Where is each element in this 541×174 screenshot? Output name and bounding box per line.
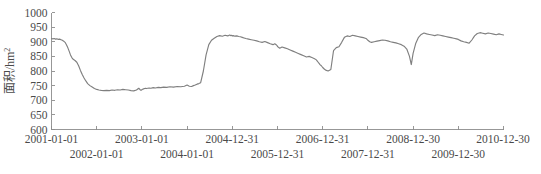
y-tick-label: 750 — [30, 80, 48, 92]
x-tick-mark-group — [52, 126, 504, 130]
figure-caption — [0, 166, 541, 174]
x-tick-label: 2004-01-01 — [160, 148, 214, 160]
x-tick-label: 2010-12-30 — [476, 133, 530, 145]
y-tick-mark-group — [52, 13, 56, 130]
x-tick-label: 2006-12-31 — [296, 133, 350, 145]
area-time-series-chart: 面积/hm2 6006507007508008509009501000 2001… — [0, 0, 541, 174]
figure-container: 面积/hm2 6006507007508008509009501000 2001… — [0, 0, 541, 174]
x-tick-label: 2004-12-31 — [205, 133, 259, 145]
y-tick-label-group: 6006507007508008509009501000 — [25, 7, 48, 136]
svg-text:面积/hm2: 面积/hm2 — [3, 48, 17, 95]
y-tick-label: 850 — [30, 50, 48, 62]
y-tick-label: 1000 — [25, 7, 48, 19]
y-axis-title: 面积/hm2 — [3, 48, 17, 95]
x-tick-label: 2003-01-01 — [115, 133, 169, 145]
x-tick-label: 2002-01-01 — [70, 148, 124, 160]
x-tick-label: 2007-12-31 — [341, 148, 395, 160]
x-tick-label-group: 2001-01-012002-01-012003-01-012004-01-01… — [25, 133, 530, 160]
y-axis-title-text: 面积/hm — [3, 51, 17, 94]
x-tick-label: 2008-12-30 — [386, 133, 440, 145]
y-tick-label: 950 — [30, 21, 48, 33]
data-series-line — [52, 33, 504, 91]
y-tick-label: 700 — [30, 94, 48, 106]
y-tick-label: 800 — [30, 65, 48, 77]
x-tick-label: 2009-12-30 — [431, 148, 485, 160]
x-tick-label: 2005-12-31 — [251, 148, 305, 160]
y-axis-title-exponent: 2 — [3, 48, 12, 52]
x-tick-label: 2001-01-01 — [25, 133, 79, 145]
y-tick-label: 900 — [30, 36, 48, 48]
y-tick-label: 650 — [30, 109, 48, 121]
